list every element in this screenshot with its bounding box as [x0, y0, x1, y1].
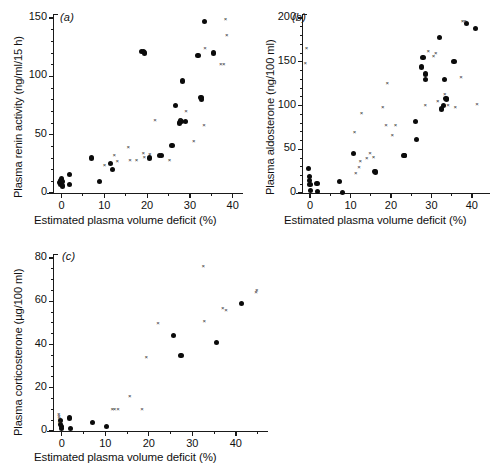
x-minor-tick — [170, 431, 171, 434]
data-point-circle — [195, 53, 200, 58]
y-tick-label: 0 — [13, 185, 47, 197]
x-major-tick — [105, 431, 106, 436]
x-major-tick — [235, 431, 236, 436]
data-point-cross: × — [224, 16, 230, 22]
data-point-circle — [420, 55, 425, 60]
data-point-cross: × — [153, 117, 159, 123]
data-point-cross: × — [303, 60, 309, 66]
data-point-cross: × — [358, 158, 364, 164]
y-minor-tick — [51, 41, 54, 42]
y-minor-tick — [300, 53, 303, 54]
data-point-cross: × — [203, 45, 209, 51]
x-axis-line — [47, 193, 243, 194]
y-major-tick — [298, 149, 303, 150]
y-major-tick — [49, 257, 54, 258]
panel-c-plot-area: 020406080010203040××××××××××××××××× — [0, 236, 280, 473]
x-major-tick — [189, 193, 190, 198]
y-minor-tick — [300, 114, 303, 115]
y-major-tick — [49, 134, 54, 135]
y-major-tick — [298, 17, 303, 18]
y-major-tick — [49, 301, 54, 302]
y-minor-tick — [300, 123, 303, 124]
x-minor-tick — [82, 193, 83, 196]
data-point-circle — [423, 71, 428, 76]
x-major-tick — [148, 431, 149, 436]
x-minor-tick — [370, 193, 371, 196]
y-minor-tick — [51, 181, 54, 182]
y-major-tick — [298, 105, 303, 106]
data-point-cross: × — [128, 157, 134, 163]
y-axis-top-cap — [53, 14, 58, 15]
data-point-circle — [211, 50, 216, 55]
data-point-cross: × — [58, 419, 64, 425]
y-minor-tick — [51, 64, 54, 65]
y-minor-tick — [51, 366, 54, 367]
data-point-circle — [437, 35, 442, 40]
data-point-circle — [340, 190, 345, 195]
data-point-cross: × — [184, 108, 190, 114]
data-point-circle — [97, 179, 102, 184]
data-point-circle — [473, 26, 478, 31]
y-tick-label: 0 — [13, 423, 47, 435]
y-minor-tick — [300, 79, 303, 80]
y-tick-label: 60 — [13, 293, 47, 305]
data-point-circle — [351, 151, 356, 156]
y-minor-tick — [51, 169, 54, 170]
x-minor-tick — [125, 193, 126, 196]
y-minor-tick — [51, 398, 54, 399]
data-point-circle — [306, 166, 311, 171]
x-major-tick — [390, 193, 391, 198]
data-point-circle — [239, 301, 244, 306]
data-point-circle — [451, 59, 456, 64]
x-major-tick — [431, 193, 432, 198]
data-point-cross: × — [475, 101, 481, 107]
x-tick-label: 0 — [44, 199, 80, 211]
y-axis-top-cap — [302, 14, 307, 15]
y-minor-tick — [51, 333, 54, 334]
data-point-circle — [337, 179, 342, 184]
x-major-tick — [61, 193, 62, 198]
y-minor-tick — [300, 175, 303, 176]
y-tick-label: 200 — [262, 10, 296, 22]
x-major-tick — [350, 193, 351, 198]
data-point-cross: × — [390, 132, 396, 138]
data-point-cross: × — [225, 32, 231, 38]
y-minor-tick — [51, 123, 54, 124]
x-major-tick — [309, 193, 310, 198]
panel-c: Plasma corticosterone (µg/100 ml) (c) 02… — [0, 236, 280, 473]
data-point-cross: × — [179, 116, 185, 122]
data-point-circle — [67, 182, 72, 187]
data-point-circle — [419, 64, 424, 69]
data-point-cross: × — [305, 45, 311, 51]
y-minor-tick — [51, 53, 54, 54]
y-minor-tick — [51, 355, 54, 356]
data-point-circle — [307, 182, 312, 187]
data-point-cross: × — [202, 263, 208, 269]
data-point-cross: × — [434, 50, 440, 56]
data-point-cross: × — [394, 122, 400, 128]
y-major-tick — [49, 430, 54, 431]
data-point-cross: × — [354, 170, 360, 176]
x-tick-label: 30 — [413, 199, 449, 211]
data-point-cross: × — [426, 48, 432, 54]
y-minor-tick — [51, 268, 54, 269]
y-tick-label: 20 — [13, 380, 47, 392]
x-tick-label: 40 — [454, 199, 490, 211]
y-tick-label: 150 — [262, 54, 296, 66]
data-point-cross: × — [365, 155, 371, 161]
y-minor-tick — [51, 88, 54, 89]
data-point-cross: × — [221, 305, 227, 311]
y-tick-label: 0 — [262, 185, 296, 197]
data-point-circle — [110, 167, 115, 172]
y-tick-label: 50 — [13, 127, 47, 139]
data-point-cross: × — [372, 154, 378, 160]
data-point-circle — [314, 181, 319, 186]
data-point-cross: × — [463, 18, 469, 24]
data-point-circle — [373, 169, 378, 174]
y-minor-tick — [51, 279, 54, 280]
y-minor-tick — [300, 44, 303, 45]
y-tick-label: 40 — [13, 337, 47, 349]
x-minor-tick — [211, 193, 212, 196]
data-point-cross: × — [202, 122, 208, 128]
